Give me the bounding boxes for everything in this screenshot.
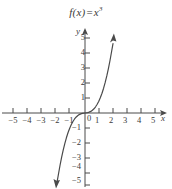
- x-tick-label: 2: [104, 115, 118, 125]
- y-tick-label: 5: [73, 32, 85, 42]
- y-tick-label: 3: [73, 62, 85, 72]
- y-tick-label: −2: [69, 137, 81, 147]
- coordinate-plane-plot: [0, 0, 172, 189]
- x-tick-label: 1: [90, 115, 104, 125]
- curve-arrow-up: [110, 34, 116, 43]
- x-axis-label: x: [161, 113, 165, 123]
- x-tick-label: −2: [48, 115, 62, 125]
- y-tick-label: 1: [73, 92, 85, 102]
- x-tick-label: −4: [20, 115, 34, 125]
- y-tick-label: 4: [73, 47, 85, 57]
- y-tick-label: −1: [69, 122, 81, 132]
- x-tick-label: −3: [34, 115, 48, 125]
- x-axis-ticks: [13, 108, 155, 113]
- y-tick-label: −5: [69, 175, 81, 185]
- x-tick-label: 4: [132, 115, 146, 125]
- y-tick-label: −4: [69, 161, 81, 171]
- x-tick-label: 5: [146, 115, 160, 125]
- y-tick-label: 2: [73, 77, 85, 87]
- x-tick-label: −5: [6, 115, 20, 125]
- cubic-function-graph-figure: f(x)=x3: [0, 0, 172, 189]
- x-tick-label: 3: [118, 115, 132, 125]
